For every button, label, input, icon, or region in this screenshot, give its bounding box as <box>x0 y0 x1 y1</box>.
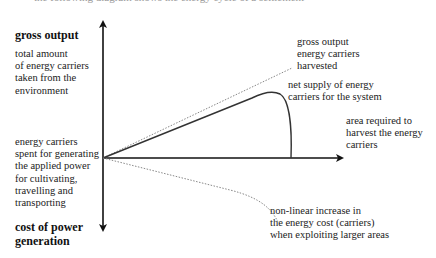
cost-curve-label: non-linear increase in the energy cost (… <box>270 205 389 242</box>
cost-of-power-heading: cost of power generation <box>15 220 83 248</box>
gross-output-description: total amount of energy carriers taken fr… <box>15 48 89 97</box>
cost-curve <box>103 158 278 222</box>
x-axis-label: area required to harvest the energy carr… <box>346 115 423 152</box>
gross-output-heading: gross output <box>15 28 78 42</box>
net-supply-label: net supply of energy carriers for the sy… <box>288 79 382 103</box>
gross-output-line <box>103 68 292 158</box>
gross-output-line-label: gross output energy carriers harvested <box>297 36 359 73</box>
net-supply-curve <box>103 92 291 158</box>
cost-description: energy carriers spent for generating the… <box>15 136 99 209</box>
